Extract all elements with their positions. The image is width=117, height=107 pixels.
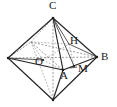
label-m: M bbox=[78, 63, 88, 74]
octahedron-drawing bbox=[0, 0, 117, 107]
label-a: A bbox=[60, 70, 68, 81]
segment-h-m bbox=[69, 44, 74, 66]
vertex-dot-d bbox=[52, 99, 54, 101]
segment-left-c bbox=[8, 18, 53, 58]
label-h: H bbox=[70, 35, 78, 46]
geometry-figure: C H B M A O bbox=[0, 0, 117, 107]
vertex-dot-b bbox=[96, 56, 98, 58]
diagonal-left-b bbox=[8, 57, 97, 58]
label-o: O bbox=[35, 56, 43, 67]
edge-d-left bbox=[8, 58, 53, 100]
vertex-dot-c bbox=[52, 17, 55, 20]
edge-back-d bbox=[31, 42, 53, 100]
vertex-dot-m bbox=[73, 65, 75, 67]
label-b: B bbox=[101, 51, 108, 62]
vertex-dot-left bbox=[7, 57, 9, 59]
label-c: C bbox=[49, 0, 56, 11]
